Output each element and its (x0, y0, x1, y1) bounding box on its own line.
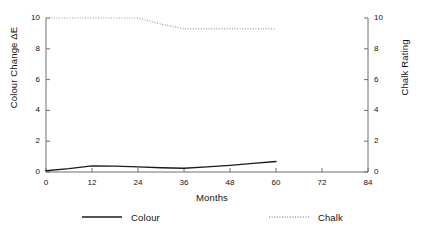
y-tick-label-right-0: 0 (374, 167, 400, 176)
right-axis-ticks (364, 18, 368, 172)
y-tick-label-right-8: 8 (374, 44, 400, 53)
x-axis-title: Months (0, 192, 424, 203)
chart-figure: Colour Change ΔE Chalk Rating Months 024… (0, 0, 424, 230)
y-axis-title-right: Chalk Rating (399, 8, 410, 128)
x-tick-label-0: 0 (33, 178, 59, 187)
y-tick-label-left-8: 8 (14, 44, 40, 53)
y-tick-label-right-4: 4 (374, 105, 400, 114)
y-tick-label-right-6: 6 (374, 75, 400, 84)
legend-swatch-colour (81, 212, 123, 222)
y-tick-label-left-4: 4 (14, 105, 40, 114)
y-tick-label-right-2: 2 (374, 136, 400, 145)
bottom-axis-ticks (46, 168, 368, 172)
x-tick-label-72: 72 (309, 178, 335, 187)
y-tick-label-left-6: 6 (14, 75, 40, 84)
x-tick-label-60: 60 (263, 178, 289, 187)
legend-item-colour: Colour (81, 212, 160, 223)
y-tick-label-left-2: 2 (14, 136, 40, 145)
series-line-colour (46, 162, 276, 171)
x-tick-label-48: 48 (217, 178, 243, 187)
series-line-chalk (46, 18, 276, 29)
legend-swatch-chalk (268, 212, 310, 222)
legend-label-chalk: Chalk (318, 212, 343, 223)
legend-item-chalk: Chalk (268, 212, 343, 223)
chart-legend: Colour Chalk (0, 206, 424, 228)
x-tick-label-24: 24 (125, 178, 151, 187)
left-axis-ticks (46, 18, 50, 172)
y-tick-label-left-10: 10 (14, 13, 40, 22)
y-tick-label-right-10: 10 (374, 13, 400, 22)
x-tick-label-36: 36 (171, 178, 197, 187)
x-tick-label-84: 84 (355, 178, 381, 187)
x-tick-label-12: 12 (79, 178, 105, 187)
legend-label-colour: Colour (131, 212, 160, 223)
y-tick-label-left-0: 0 (14, 167, 40, 176)
